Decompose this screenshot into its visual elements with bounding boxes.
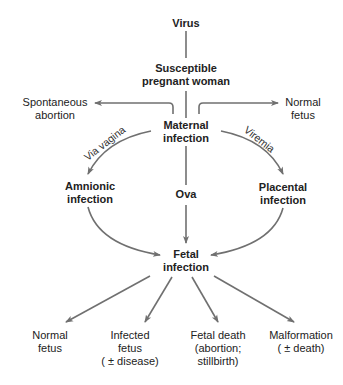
node-susceptible-pregnant-woman: Susceptible pregnant woman bbox=[136, 62, 236, 88]
edge-fetal-fetal-death bbox=[192, 277, 218, 322]
node-virus: Virus bbox=[156, 17, 216, 30]
node-normal-fetus-bottom: Normal fetus bbox=[20, 329, 80, 355]
node-malformation: Malformation ( ± death) bbox=[263, 329, 339, 355]
edge-amnionic-fetal bbox=[88, 207, 160, 255]
node-infected-fetus: Infected fetus ( ± disease) bbox=[95, 329, 165, 368]
node-placental-infection: Placental infection bbox=[246, 181, 320, 207]
edge-fetal-infected-fetus bbox=[145, 277, 172, 322]
edge-maternal-normal-fetus bbox=[199, 103, 278, 114]
node-ova: Ova bbox=[166, 188, 206, 201]
node-fetal-infection: Fetal infection bbox=[151, 248, 221, 274]
edge-fetal-normal-fetus bbox=[66, 276, 150, 322]
node-spontaneous-abortion: Spontaneous abortion bbox=[15, 96, 95, 122]
edge-fetal-malformation bbox=[214, 276, 294, 322]
node-maternal-infection: Maternal infection bbox=[151, 119, 221, 145]
node-amnionic-infection: Amnionic infection bbox=[55, 180, 125, 206]
node-fetal-death: Fetal death (abortion; stillbirth) bbox=[178, 329, 258, 368]
node-normal-fetus-top: Normal fetus bbox=[278, 96, 328, 122]
edge-placental-fetal bbox=[211, 208, 283, 255]
edge-maternal-spontaneous-abortion bbox=[95, 103, 173, 114]
